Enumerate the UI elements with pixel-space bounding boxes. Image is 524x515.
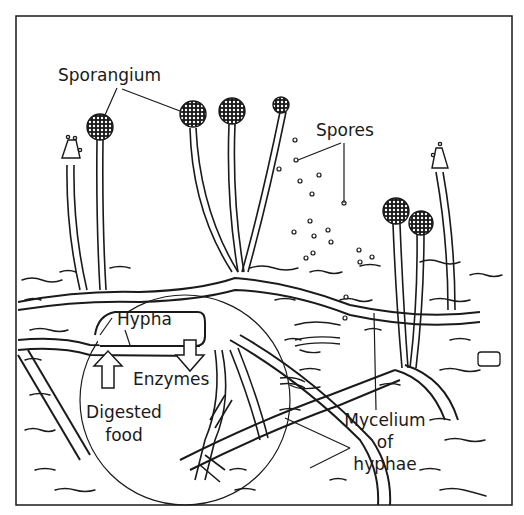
mycelium-line2: of <box>340 433 430 452</box>
hypha-fragments <box>280 337 500 388</box>
sporangium-head <box>273 97 289 113</box>
spores-label: Spores <box>316 121 374 140</box>
digested-food-line2: food <box>80 426 168 445</box>
sporangium-head <box>87 114 113 140</box>
digested-food-line1: Digested <box>80 403 168 422</box>
sporangia <box>87 97 433 235</box>
hypha-label: Hypha <box>117 310 172 329</box>
sporangium-label: Sporangium <box>58 66 161 85</box>
mycelium-line3: hyphae <box>340 455 430 474</box>
enzymes-label: Enzymes <box>133 370 209 389</box>
sporangium-head <box>219 98 245 124</box>
columella <box>62 135 448 168</box>
sporangium-head <box>180 101 206 127</box>
mycelium-label: Mycelium of hyphae <box>340 411 430 474</box>
sporangium-head <box>383 198 409 224</box>
digested-food-arrow <box>94 351 122 388</box>
sporangium-head <box>409 211 433 235</box>
digested-food-label: Digested food <box>80 403 168 445</box>
main-hypha <box>18 278 480 325</box>
spores <box>277 138 374 320</box>
mycelium-line1: Mycelium <box>340 411 430 430</box>
